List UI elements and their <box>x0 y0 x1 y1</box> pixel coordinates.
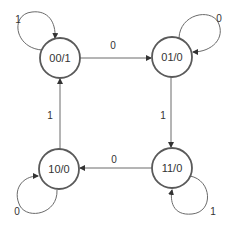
edge-label-01-11: 1 <box>160 110 166 121</box>
loop-label-11: 1 <box>210 206 216 217</box>
state-label-10: 10/0 <box>48 163 69 175</box>
loop-label-10: 0 <box>14 206 20 217</box>
edge-label-11-10: 0 <box>111 154 117 165</box>
state-01: 01/0 <box>152 37 192 77</box>
edge-label-10-00: 1 <box>47 110 53 121</box>
state-11: 11/0 <box>152 148 192 188</box>
state-label-11: 11/0 <box>162 162 183 174</box>
state-00: 00/1 <box>40 38 80 78</box>
loop-label-01: 0 <box>216 13 222 24</box>
edge-label-00-01: 0 <box>110 40 116 51</box>
state-label-00: 00/1 <box>49 52 70 64</box>
loop-label-00: 1 <box>15 14 21 25</box>
state-10: 10/0 <box>39 149 79 189</box>
state-diagram: 1 0 0 1 1 0 0 1 00/1 01/0 10/0 11/0 <box>0 0 234 225</box>
state-label-01: 01/0 <box>161 51 182 63</box>
